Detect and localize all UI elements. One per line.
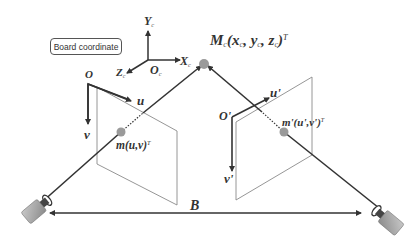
z-axis-arrow: [127, 60, 148, 73]
right-v-label: v': [224, 172, 233, 185]
world-point-marker: [199, 59, 209, 69]
right-ray-far: [208, 66, 262, 112]
diagram-canvas: [0, 0, 413, 241]
y-axis-label: Yc: [144, 15, 154, 28]
left-u-arrow: [88, 84, 131, 101]
left-u-label: u: [137, 94, 144, 107]
left-origin-label: O: [85, 69, 93, 80]
left-image-point-label: m(u,v)T: [116, 140, 151, 152]
world-point-label: Mc(xc, yc, zc)T: [210, 33, 288, 49]
x-axis-label: Xc: [180, 55, 191, 68]
left-image-point-marker: [117, 128, 126, 137]
left-v-label: v: [84, 128, 90, 141]
board-origin-label: Oc: [150, 64, 162, 77]
z-axis-label: Zc: [116, 67, 125, 79]
right-camera-icon: [369, 203, 404, 236]
baseline-label: B: [190, 199, 199, 213]
right-ray-near: [284, 132, 379, 208]
right-u-arrow: [232, 98, 269, 117]
right-origin-label: O': [219, 110, 231, 122]
left-camera-icon: [21, 193, 54, 224]
board-coordinate-label: Board coordinate: [50, 38, 122, 55]
stereo-diagram: Board coordinate Yc Xc Zc Oc Mc(xc, yc, …: [0, 0, 413, 241]
right-image-point-marker: [280, 128, 289, 137]
right-image-point-label: m'(u',v')T: [282, 117, 324, 128]
right-u-label: u': [270, 86, 281, 99]
left-image-axes: [88, 84, 130, 122]
